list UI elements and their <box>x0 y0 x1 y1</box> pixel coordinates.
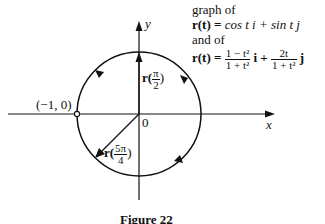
description-line-4: r(t) = 1 − t²1 + t² i + 2t1 + t² j <box>192 48 304 71</box>
y-axis-label: y <box>145 17 151 31</box>
fraction-denominator: 2 <box>152 80 160 91</box>
r-5pi-over-4-fraction: 5π4 <box>114 143 127 166</box>
r-5pi-over-4-suffix: ) <box>127 145 131 160</box>
orientation-arrow-upper-right-icon <box>180 75 188 84</box>
r-function-rhs: cos t i + sin t j <box>225 17 300 32</box>
rational-end: j <box>300 50 304 65</box>
r-pi-over-2-suffix: ) <box>160 70 164 85</box>
fraction-denominator: 4 <box>114 155 127 166</box>
fraction-denominator: 1 + t² <box>271 60 297 71</box>
rational-mid: i + <box>253 50 267 65</box>
x-axis-label: x <box>266 118 272 132</box>
orientation-arrow-upper-left-icon <box>95 70 104 78</box>
r-5pi-over-4-label: r(5π4) <box>104 143 132 166</box>
r-5pi-over-4-prefix: r( <box>104 145 114 160</box>
r-pi-over-2-fraction: π2 <box>152 68 160 91</box>
fraction-denominator: 1 + t² <box>225 60 251 71</box>
y-axis-arrow-icon <box>136 21 143 31</box>
vector-r-pi-over-2-arrow-icon <box>136 52 143 62</box>
r-rational-lhs: r(t) = <box>192 50 221 65</box>
r-pi-over-2-label: r(π2) <box>142 68 164 91</box>
description-line-3: and of <box>192 33 225 47</box>
r-function-lhs: r(t) = <box>192 17 221 32</box>
rational-fraction-2: 2t1 + t² <box>271 48 297 71</box>
origin-label: 0 <box>142 116 149 130</box>
excluded-point-neg-one <box>74 111 79 116</box>
description-line-1: graph of <box>192 3 236 17</box>
r-pi-over-2-prefix: r( <box>142 70 152 85</box>
point-neg-one-label: (−1, 0) <box>36 98 72 112</box>
description-line-2: r(t) = cos t i + sin t j <box>192 18 300 32</box>
rational-fraction-1: 1 − t²1 + t² <box>225 48 251 71</box>
unit-circle-diagram <box>0 0 325 224</box>
figure-caption: Figure 22 <box>120 212 173 224</box>
